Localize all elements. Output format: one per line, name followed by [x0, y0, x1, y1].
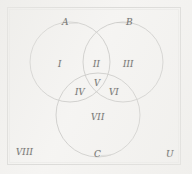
region-label-1: I [58, 60, 62, 69]
region-label-4: IV [75, 88, 85, 97]
leader-b [117, 23, 126, 24]
label-set-b: B [126, 18, 133, 27]
region-label-5: V [94, 79, 100, 88]
region-label-3: III [123, 60, 134, 69]
leader-c [101, 155, 111, 156]
venn-diagram-figure: A B C U I II III IV V VI VII VIII [0, 0, 192, 174]
region-label-7: VII [91, 113, 104, 122]
label-set-a: A [62, 18, 69, 27]
label-universe: U [166, 150, 174, 159]
leader-a [69, 23, 78, 24]
region-label-2: II [93, 60, 100, 69]
label-set-c: C [94, 150, 101, 159]
region-label-8: VIII [16, 148, 33, 157]
region-label-6: VI [109, 88, 119, 97]
